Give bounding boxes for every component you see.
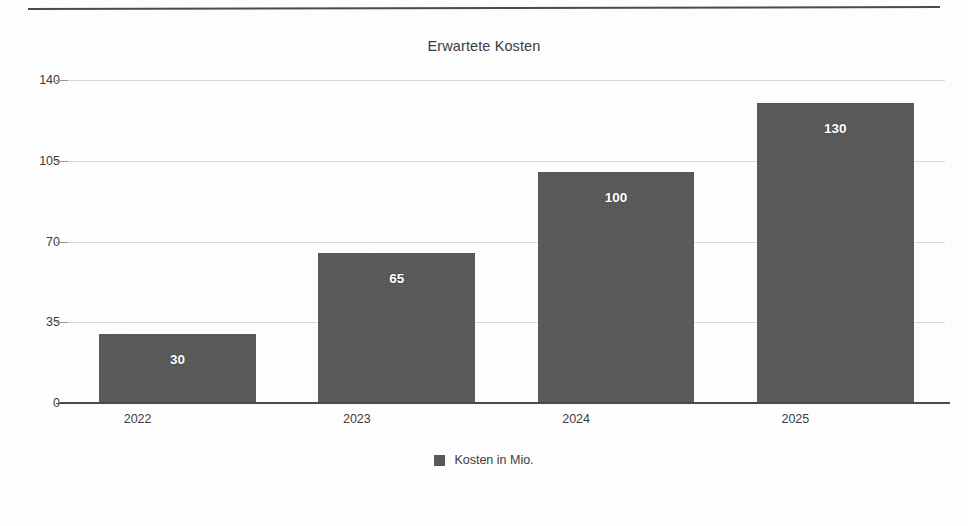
scanned-chart-page: Erwartete Kosten 03570105140 3065100130 …	[0, 0, 968, 526]
bar-value-label-2025: 130	[757, 121, 914, 136]
y-tick-label-0: 0	[8, 396, 60, 410]
bar-2022[interactable]: 30	[99, 334, 256, 403]
y-tick-mark-105	[56, 161, 68, 162]
y-axis: 03570105140	[0, 0, 60, 526]
y-tick-label-70: 70	[8, 235, 60, 249]
chart-legend: Kosten in Mio.	[0, 453, 968, 467]
legend-swatch-kosten	[434, 455, 445, 466]
plot-area: 3065100130	[68, 80, 945, 403]
chart-title: Erwartete Kosten	[0, 38, 968, 54]
y-tick-mark-70	[56, 242, 68, 243]
y-tick-mark-140	[56, 80, 68, 81]
bar-chart: Erwartete Kosten 03570105140 3065100130 …	[0, 0, 968, 526]
x-tick-label-2025: 2025	[755, 412, 835, 426]
x-tick-label-2022: 2022	[98, 412, 178, 426]
x-axis-line	[60, 402, 950, 404]
gridline-y-140	[68, 80, 945, 81]
y-tick-mark-35	[56, 322, 68, 323]
bar-value-label-2024: 100	[538, 190, 695, 205]
bar-2025[interactable]: 130	[757, 103, 914, 403]
bar-2024[interactable]: 100	[538, 172, 695, 403]
x-tick-label-2023: 2023	[317, 412, 397, 426]
bar-value-label-2022: 30	[99, 352, 256, 367]
y-tick-label-140: 140	[8, 73, 60, 87]
bar-2023[interactable]: 65	[318, 253, 475, 403]
bar-value-label-2023: 65	[318, 271, 475, 286]
y-tick-label-105: 105	[8, 154, 60, 168]
x-tick-label-2024: 2024	[536, 412, 616, 426]
y-tick-label-35: 35	[8, 315, 60, 329]
legend-label-kosten: Kosten in Mio.	[454, 453, 533, 467]
